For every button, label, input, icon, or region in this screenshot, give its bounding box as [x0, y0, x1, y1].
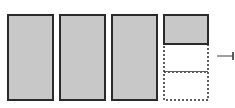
fraction-bar-diagram [0, 0, 235, 108]
whole-bar-1 [8, 15, 53, 100]
whole-bar-3 [112, 15, 157, 100]
partial-bar-empty-segment-3 [164, 72, 208, 100]
partial-bar-empty-segment-2 [164, 44, 208, 72]
whole-bar-2 [60, 15, 105, 100]
partial-bar-shaded-segment-1 [164, 15, 208, 44]
